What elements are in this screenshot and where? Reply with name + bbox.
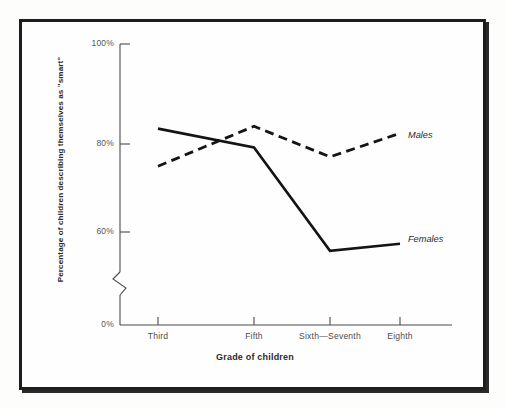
- x-tick-label-eighth: Eighth: [370, 331, 430, 341]
- y-tick-label-0: 0%: [80, 319, 114, 329]
- figure-chart: 100% 80% 60% 0% Third Fifth Sixth—Sevent…: [0, 0, 505, 409]
- series-line-males: [158, 126, 400, 166]
- series-label-females: Females: [408, 234, 443, 244]
- line-chart-plot-area: [0, 0, 505, 409]
- y-tick-label-100: 100%: [80, 38, 114, 48]
- y-axis-break-zigzag: [113, 272, 126, 295]
- x-tick-label-sixth-seventh: Sixth—Seventh: [285, 331, 375, 341]
- x-tick-label-fifth: Fifth: [224, 331, 284, 341]
- y-axis-title: Percentage of children describing themse…: [56, 55, 65, 285]
- x-tick-label-third: Third: [128, 331, 188, 341]
- y-tick-label-80: 80%: [80, 138, 114, 148]
- series-label-males: Males: [408, 130, 433, 140]
- x-axis-title: Grade of children: [110, 352, 400, 362]
- y-tick-label-60: 60%: [80, 226, 114, 236]
